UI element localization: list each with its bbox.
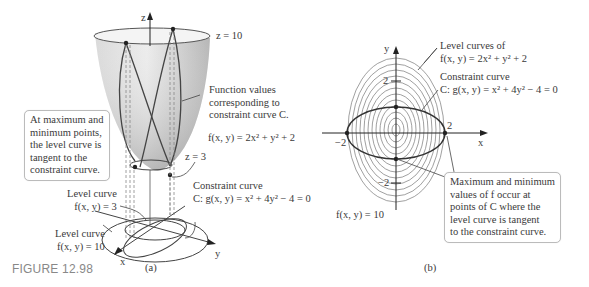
x-axis-label-b: x bbox=[478, 137, 483, 150]
y-tick-2: 2 bbox=[383, 75, 388, 88]
function-equation-a: f(x, y) = 2x² + y² + 2 bbox=[208, 132, 295, 145]
caption-a: (a) bbox=[145, 262, 157, 275]
y-tick-neg2: −2 bbox=[378, 177, 389, 190]
callout-box-b: Maximum and minimum values of f occur at… bbox=[444, 172, 561, 243]
x-tick-neg2: −2 bbox=[335, 137, 346, 150]
y-axis-label-b: y bbox=[384, 43, 389, 56]
callout-box-a: At maximum and minimum points, the level… bbox=[24, 110, 110, 181]
x-axis-label-a: x bbox=[120, 256, 125, 269]
caption-b: (b) bbox=[424, 262, 436, 275]
level-curve-10-label: Level curve f(x, y) = 10 bbox=[55, 228, 105, 253]
constraint-label-b: Constraint curve C: g(x, y) = x² + 4y² −… bbox=[440, 71, 558, 96]
x-tick-2: 2 bbox=[447, 120, 452, 133]
level-curves-label-b: Level curves of f(x, y) = 2x² + y² + 2 bbox=[440, 40, 527, 65]
z3-label: z = 3 bbox=[185, 151, 206, 164]
f10-label-b: f(x, y) = 10 bbox=[336, 209, 384, 222]
function-values-label: Function values corresponding to constra… bbox=[209, 84, 289, 122]
xy-plane-a bbox=[95, 206, 212, 265]
z-axis-label-a: z bbox=[141, 12, 146, 25]
figure-label: FIGURE 12.98 bbox=[12, 262, 93, 276]
y-axis-label-a: y bbox=[215, 248, 220, 261]
z10-label: z = 10 bbox=[216, 30, 242, 43]
constraint-label-a: Constraint curve C: g(x, y) = x² + 4y² −… bbox=[193, 180, 311, 205]
level-curve-3-label: Level curve f(x, y) = 3 bbox=[67, 188, 117, 213]
